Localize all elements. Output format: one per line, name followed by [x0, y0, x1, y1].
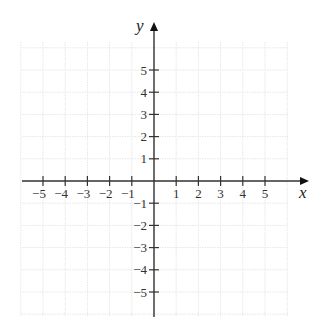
x-tick-label: −4	[54, 186, 68, 201]
x-tick-label: 3	[217, 186, 224, 201]
x-tick-label: −3	[76, 186, 90, 201]
x-tick-label: 4	[240, 186, 247, 201]
y-tick-label: −5	[133, 285, 147, 300]
y-tick-label: 1	[141, 151, 148, 166]
x-tick-label: 5	[262, 186, 269, 201]
x-tick-label: −5	[32, 186, 46, 201]
coordinate-plane: −5−4−3−2−112345−5−4−3−2−112345 x y	[0, 0, 317, 332]
y-axis-arrow-icon	[150, 22, 158, 31]
x-tick-label: −2	[99, 186, 113, 201]
x-tick-label: 2	[195, 186, 202, 201]
y-tick-label: −2	[133, 218, 147, 233]
y-tick-label: −3	[133, 240, 147, 255]
y-tick-label: −4	[133, 262, 147, 277]
y-tick-label: 4	[141, 85, 148, 100]
y-tick-label: −1	[133, 196, 147, 211]
y-axis-label: y	[134, 16, 144, 35]
y-tick-label: 3	[141, 107, 148, 122]
x-axis-label: x	[298, 183, 307, 202]
x-tick-label: 1	[173, 186, 180, 201]
y-tick-label: 5	[141, 63, 148, 78]
y-tick-label: 2	[141, 129, 148, 144]
